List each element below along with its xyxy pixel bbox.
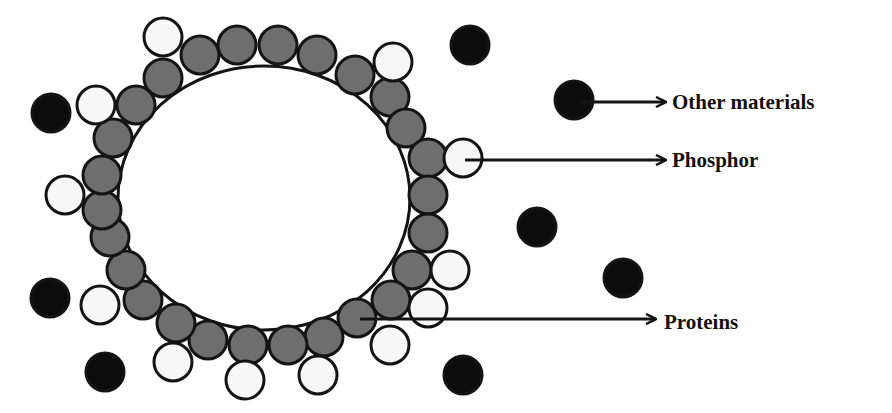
phosphor-particle — [299, 356, 337, 394]
phosphor-particle — [226, 361, 264, 399]
other-material-particle — [451, 26, 489, 64]
other-material-particle — [32, 94, 70, 132]
phosphor-particle — [81, 286, 119, 324]
protein-corona-diagram — [0, 0, 892, 413]
label-phosphor: Phosphor — [672, 150, 758, 171]
protein-particle — [117, 86, 155, 124]
protein-particle — [218, 26, 256, 64]
phosphor-particle — [374, 43, 412, 81]
protein-particle — [269, 326, 307, 364]
protein-particle — [409, 214, 447, 252]
phosphor-particle — [371, 326, 409, 364]
label-proteins: Proteins — [664, 312, 738, 333]
other-material-particle — [555, 81, 593, 119]
other-material-particle — [86, 353, 124, 391]
protein-particle — [305, 318, 343, 356]
other-material-particle — [31, 279, 69, 317]
phosphor-particle — [409, 289, 447, 327]
protein-particle — [181, 36, 219, 74]
label-other-materials: Other materials — [672, 92, 815, 113]
phosphor-particle — [444, 139, 482, 177]
protein-particle — [298, 36, 336, 74]
phosphor-particle — [144, 18, 182, 56]
protein-particle — [229, 326, 267, 364]
other-material-particle — [518, 208, 556, 246]
protein-particle — [336, 56, 374, 94]
core-ellipse — [118, 66, 410, 330]
other-material-particle — [444, 356, 482, 394]
core-particle — [118, 66, 410, 330]
phosphor-particle — [46, 176, 84, 214]
protein-particle — [372, 281, 410, 319]
protein-particle — [83, 156, 121, 194]
other-material-particle — [604, 259, 642, 297]
phosphor-particle — [77, 86, 115, 124]
protein-particle — [409, 139, 447, 177]
phosphor-particle — [431, 251, 469, 289]
protein-particle — [157, 304, 195, 342]
protein-particle — [259, 26, 297, 64]
protein-particle — [409, 176, 447, 214]
protein-particle — [83, 191, 121, 229]
phosphor-particle — [154, 343, 192, 381]
